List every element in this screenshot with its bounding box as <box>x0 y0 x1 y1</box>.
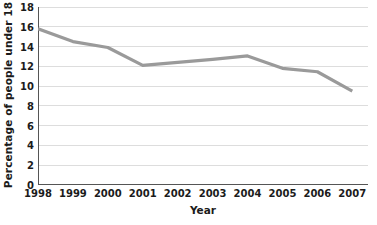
x-tick-label: 1998 <box>24 188 52 199</box>
x-tick-label: 2005 <box>269 188 297 199</box>
axis-lines <box>38 7 368 185</box>
gridlines <box>38 7 368 185</box>
y-tick-label: 16 <box>20 21 34 32</box>
y-tick-label: 2 <box>27 160 34 171</box>
plot-svg <box>38 7 368 185</box>
x-tick-label: 2006 <box>303 188 331 199</box>
x-tick-label: 1999 <box>59 188 87 199</box>
y-tick-label: 10 <box>20 81 34 92</box>
x-tick-label: 2000 <box>94 188 122 199</box>
x-axis-tick-labels: 1998199920002001200220032004200520062007 <box>38 188 368 204</box>
y-tick-label: 12 <box>20 61 34 72</box>
x-axis-title: Year <box>38 204 368 216</box>
x-tick-label: 2002 <box>164 188 192 199</box>
y-tick-label: 8 <box>27 100 34 111</box>
axis-tick-marks <box>38 7 352 185</box>
line-chart: Percentage of people under 18 0246810121… <box>0 0 377 225</box>
y-tick-label: 6 <box>27 120 34 131</box>
y-axis-tick-labels: 024681012141618 <box>16 0 36 190</box>
x-tick-label: 2001 <box>129 188 157 199</box>
y-tick-label: 14 <box>20 41 34 52</box>
y-tick-label: 4 <box>27 140 34 151</box>
y-tick-label: 18 <box>20 2 34 13</box>
data-series-line <box>38 29 352 91</box>
x-tick-label: 2007 <box>338 188 366 199</box>
y-axis-title-text: Percentage of people under 18 <box>2 2 14 188</box>
x-tick-label: 2003 <box>199 188 227 199</box>
x-tick-label: 2004 <box>234 188 262 199</box>
plot-area <box>38 7 368 185</box>
y-axis-title: Percentage of people under 18 <box>0 0 16 190</box>
